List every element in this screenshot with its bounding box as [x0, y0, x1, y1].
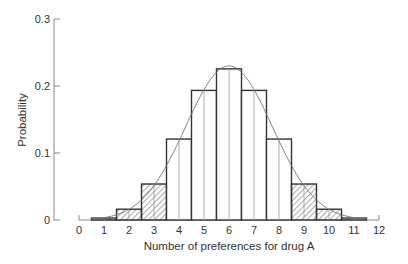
x-tick-label: 4 [176, 224, 182, 236]
x-tick-label: 2 [126, 224, 132, 236]
x-tick-label: 10 [323, 224, 335, 236]
y-tick-label: 0.2 [35, 80, 50, 92]
x-tick-label: 1 [101, 224, 107, 236]
x-tick-label: 6 [226, 224, 232, 236]
y-tick-label: 0 [44, 214, 50, 226]
probability-histogram: 00.10.20.3 0123456789101112 Probability … [0, 0, 408, 264]
x-tick-label: 3 [151, 224, 157, 236]
x-tick-label: 0 [76, 224, 82, 236]
x-tick-label: 8 [276, 224, 282, 236]
x-axis-title: Number of preferences for drug A [144, 240, 315, 252]
x-tick-label: 7 [251, 224, 257, 236]
y-tick-label: 0.3 [35, 13, 50, 25]
x-tick-label: 9 [301, 224, 307, 236]
y-axis-title: Probability [16, 93, 28, 147]
bars [92, 69, 367, 220]
y-tick-label: 0.1 [35, 147, 50, 159]
x-tick-label: 12 [373, 224, 385, 236]
y-axis: 00.10.20.3 [35, 13, 60, 226]
x-tick-label: 11 [348, 224, 359, 236]
x-tick-label: 5 [201, 224, 207, 236]
